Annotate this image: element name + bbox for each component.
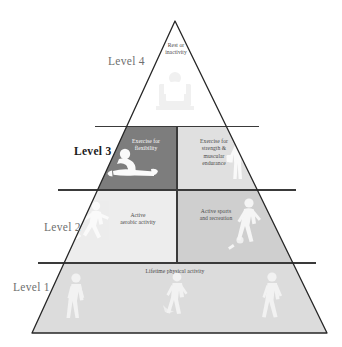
- level-1-label: Level 1: [13, 282, 50, 294]
- exercise-strength-caption: Exercise for strength & muscular enduran…: [186, 138, 242, 168]
- level-2-label: Level 2: [44, 222, 81, 234]
- lifetime-activity-caption: Lifetime physical activity: [110, 268, 240, 275]
- level-3-left-fill: [95, 127, 177, 189]
- level-4-label: Level 4: [108, 56, 145, 68]
- level-2-right-fill: [177, 191, 299, 262]
- level-4-fill: [0, 21, 342, 126]
- level-3-label: Level 3: [74, 146, 112, 158]
- rest-inactivity-caption: Rest or inactivity: [149, 42, 203, 57]
- level-4-band: [0, 21, 342, 126]
- physical-activity-pyramid-figure: Level 4 Level 3 Level 2 Level 1 Rest or …: [0, 0, 342, 347]
- exercise-flexibility-caption: Exercise for flexibility: [118, 138, 174, 153]
- active-sports-caption: Active sports and recreation: [184, 208, 248, 223]
- active-aerobic-caption: Active aerobic activity: [106, 212, 170, 227]
